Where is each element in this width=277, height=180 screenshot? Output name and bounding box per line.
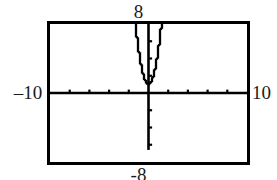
plot-area — [0, 0, 277, 180]
curve-pixel — [145, 80, 147, 84]
curve-pixel — [153, 69, 155, 77]
curve-pixel — [135, 24, 137, 37]
curve-pixel — [159, 29, 161, 45]
curve-pixel — [157, 45, 159, 59]
curve-pixel — [143, 74, 145, 80]
graph-figure: 8 -8 –10 10 — [0, 0, 277, 180]
curve-pixel — [155, 59, 157, 70]
curve-pixel — [149, 82, 151, 84]
curve-pixel — [161, 24, 163, 29]
curve-pixel — [137, 37, 139, 52]
curve-pixel — [141, 64, 143, 73]
curve-pixel — [139, 52, 141, 64]
curve-pixel — [151, 77, 153, 82]
